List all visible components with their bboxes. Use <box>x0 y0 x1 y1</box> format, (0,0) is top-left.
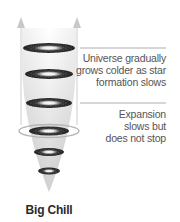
annotation-star-formation: Universe gradually grows colder as star … <box>56 52 166 88</box>
diagram-title-label: Big Chill <box>0 203 98 217</box>
annotation-line: Universe gradually <box>56 52 166 64</box>
annotation-line: slows but <box>76 120 166 132</box>
galaxy-disk-icon <box>34 148 64 156</box>
galaxy-disk-icon <box>38 168 60 175</box>
annotation-line: grows colder as star <box>56 64 166 76</box>
annotation-line: formation slows <box>56 76 166 88</box>
galaxy-disk-icon <box>29 126 69 135</box>
annotation-line: does not stop <box>76 132 166 144</box>
annotation-expansion: Expansion slows but does not stop <box>76 108 166 144</box>
galaxy-disk-icon <box>26 98 72 108</box>
annotation-line: Expansion <box>76 108 166 120</box>
